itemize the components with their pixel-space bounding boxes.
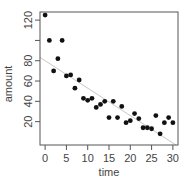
data-point [68,73,73,78]
data-point [119,104,124,109]
data-point [102,99,107,104]
data-point [85,98,90,103]
y-axis-label: amount [2,66,14,103]
data-point [149,126,154,131]
y-tick-label: 80 [22,55,34,67]
plot-frame [40,12,178,145]
data-point [43,13,48,18]
data-point [94,105,99,110]
data-points [43,13,176,137]
scatter-plot: 051015202530 20406080120 time amount [0,0,188,182]
data-point [81,96,86,101]
data-point [115,115,120,120]
data-point [64,74,69,79]
y-tick-label: 120 [22,11,34,29]
data-point [111,99,116,104]
data-point [128,118,133,123]
x-tick-label: 10 [82,152,94,164]
data-point [47,38,52,43]
fit-line [40,57,176,145]
x-tick-label: 15 [103,152,115,164]
data-point [90,96,95,101]
regression-line [40,57,176,145]
x-tick-label: 25 [145,152,157,164]
y-tick-label: 60 [22,75,34,87]
y-tick-label: 20 [22,116,34,128]
x-tick-label: 20 [124,152,136,164]
x-axis-label: time [99,166,120,178]
data-point [162,120,167,125]
data-point [132,111,137,116]
y-tick-label: 40 [22,95,34,107]
data-point [107,115,112,120]
data-point [158,131,163,136]
data-point [77,78,82,83]
data-point [170,120,175,125]
data-point [98,102,103,107]
x-tick-label: 30 [167,152,179,164]
data-point [145,125,150,130]
data-point [153,113,158,118]
data-point [166,115,171,120]
x-tick-label: 0 [42,152,48,164]
x-tick-label: 5 [63,152,69,164]
data-point [51,68,56,73]
data-point [73,86,78,91]
data-point [60,38,65,43]
data-point [141,125,146,130]
data-point [136,116,141,121]
y-axis: 20406080120 [22,11,40,128]
data-point [124,120,129,125]
x-axis: 051015202530 [42,145,179,164]
data-point [55,56,60,61]
